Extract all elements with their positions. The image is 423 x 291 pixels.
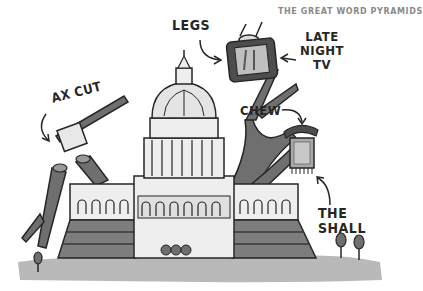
small-tree-2 [354,235,364,260]
log-stump-left [38,168,66,248]
credit-text: THE GREAT WORD PYRAMIDS [278,7,423,16]
shall-arrow [318,178,330,205]
right-steps [232,220,316,258]
label-chew: CHEW [240,104,281,118]
small-tree-1 [336,233,346,258]
label-late-night-tv: LATE NIGHT TV [300,30,344,72]
grass [18,256,382,283]
label-the-shall: THE SHALL [318,206,366,236]
ax-arrow [41,114,48,140]
left-steps [58,220,136,258]
label-legs: LEGS [172,18,210,32]
axe-icon [56,96,128,151]
tv-icon [226,22,278,82]
